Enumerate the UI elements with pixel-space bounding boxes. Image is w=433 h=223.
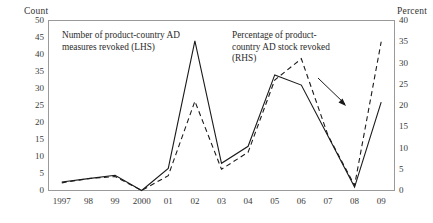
annotation-line: Number of product-country AD	[62, 30, 197, 42]
annotation-line: (RHS)	[232, 53, 342, 65]
annotation-line: country AD stock revoked	[232, 42, 342, 54]
annotation-lhs-label: Number of product-country ADmeasures rev…	[62, 30, 197, 53]
annotation-line: measures revoked (LHS)	[62, 42, 197, 54]
chart-figure: Count Percent 05101520253035404550 05101…	[0, 0, 433, 223]
annotation-line: Percentage of product-	[232, 30, 342, 42]
annotation-arrow-icon	[318, 78, 346, 106]
annotation-rhs-label: Percentage of product-country AD stock r…	[232, 30, 342, 65]
